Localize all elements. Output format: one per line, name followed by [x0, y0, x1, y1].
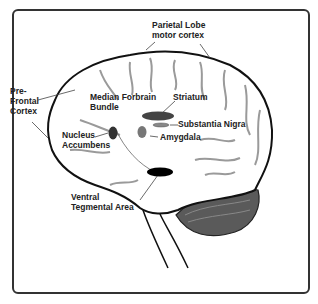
- substantia-nigra-shape: [153, 123, 169, 127]
- label-nucleus-accumbens: Nucleus Accumbens: [62, 130, 110, 150]
- amygdala-shape: [138, 126, 147, 138]
- label-median-forebrain-bundle: Median Forbrain Bundle: [90, 92, 156, 112]
- label-amygdala: Amygdala: [160, 132, 201, 142]
- vta-shape: [147, 168, 173, 177]
- label-ventral-tegmental-area: Ventral Tegmental Area: [71, 192, 134, 212]
- brain-illustration: [0, 0, 318, 304]
- label-parietal-lobe: Parietal Lobe motor cortex: [152, 20, 205, 40]
- striatum-shape: [142, 112, 174, 121]
- label-prefrontal-cortex: Pre- Frontal Cortex: [10, 86, 39, 116]
- label-substantia-nigra: Substantia Nigra: [178, 119, 246, 129]
- label-striatum: Striatum: [173, 92, 207, 102]
